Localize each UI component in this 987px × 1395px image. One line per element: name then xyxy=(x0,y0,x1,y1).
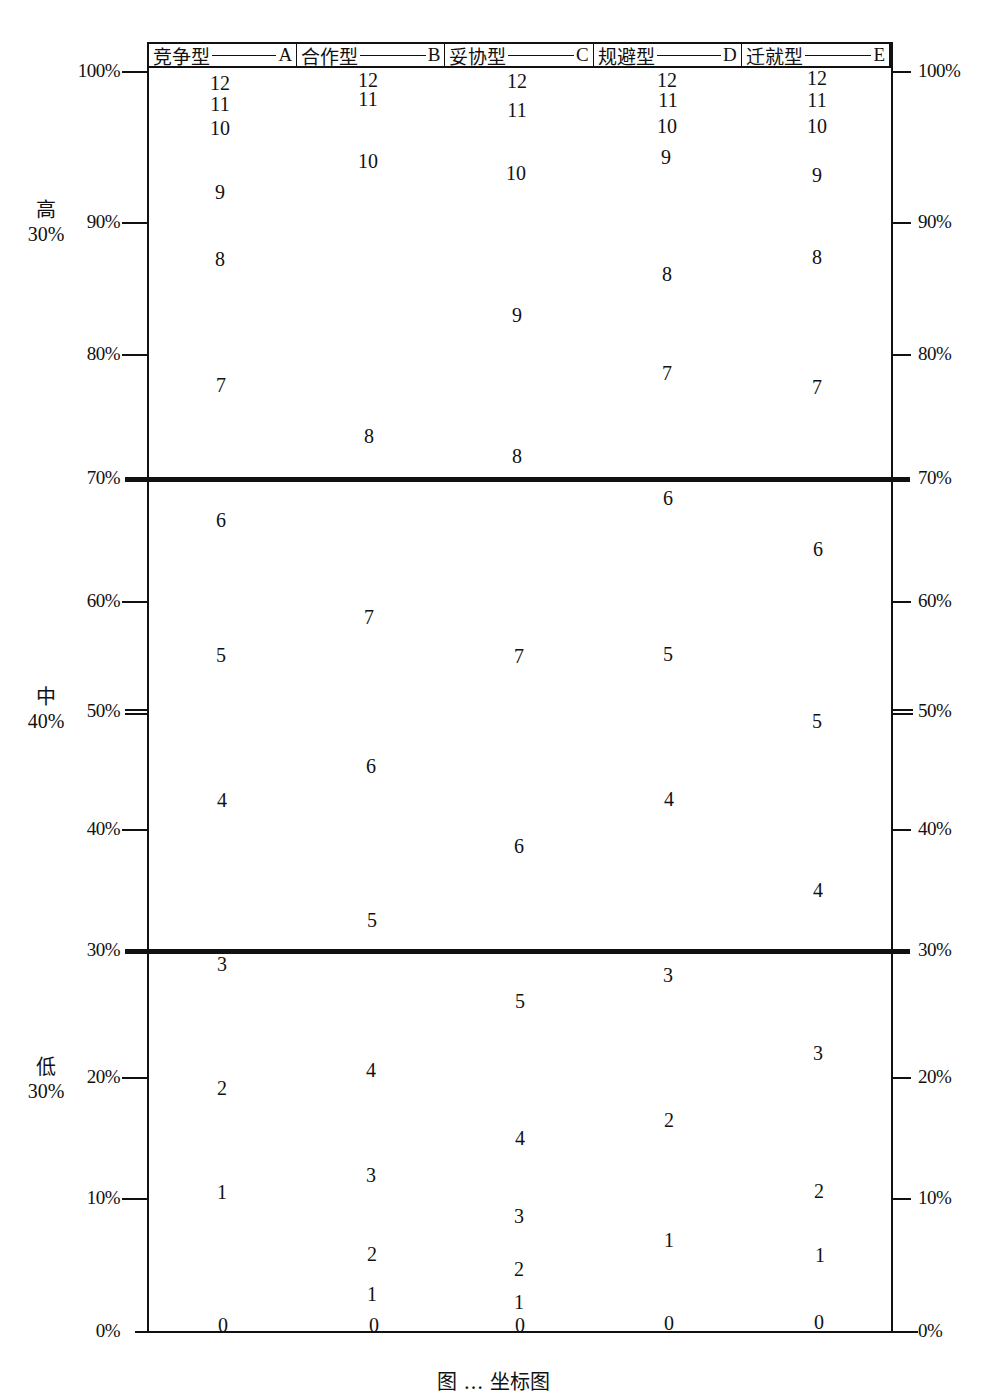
score-point-a: 10 xyxy=(210,117,230,140)
style-letter: B xyxy=(428,44,441,66)
score-point-b: 2 xyxy=(367,1243,377,1266)
score-point-e: 5 xyxy=(812,710,822,733)
score-point-a: 8 xyxy=(215,248,225,271)
score-point-b: 6 xyxy=(366,755,376,778)
left-axis-tick-label: 40% xyxy=(40,818,120,840)
tick-mark xyxy=(891,71,911,73)
dash-line xyxy=(360,55,426,56)
score-point-e: 6 xyxy=(813,538,823,561)
score-point-c: 7 xyxy=(514,645,524,668)
score-point-a: 4 xyxy=(217,789,227,812)
right-axis-tick-label: 10% xyxy=(918,1187,951,1209)
score-point-e: 10 xyxy=(807,115,827,138)
right-axis-tick-label: 40% xyxy=(918,818,951,840)
dash-line xyxy=(657,55,721,56)
zone-share: 30% xyxy=(16,222,76,246)
zone-label-high: 高30% xyxy=(16,198,76,246)
style-name: 竞争型 xyxy=(153,42,210,69)
dash-line xyxy=(508,55,574,56)
tick-mark xyxy=(122,71,147,73)
zone-share: 40% xyxy=(16,709,76,733)
right-axis-tick-label: 100% xyxy=(918,60,960,82)
score-point-d: 9 xyxy=(661,146,671,169)
score-point-a: 9 xyxy=(215,181,225,204)
score-point-d: 4 xyxy=(664,788,674,811)
score-point-b: 7 xyxy=(364,606,374,629)
score-point-c: 4 xyxy=(515,1127,525,1150)
style-name: 规避型 xyxy=(598,42,655,69)
score-point-d: 1 xyxy=(664,1229,674,1252)
score-point-a: 12 xyxy=(210,72,230,95)
right-axis-tick-label: 0% xyxy=(918,1320,942,1342)
score-point-e: 9 xyxy=(812,164,822,187)
tick-mark xyxy=(891,222,911,224)
score-point-c: 2 xyxy=(514,1258,524,1281)
score-point-b: 5 xyxy=(367,909,377,932)
style-letter: C xyxy=(576,44,589,66)
score-point-e: 7 xyxy=(812,376,822,399)
score-point-a: 7 xyxy=(216,374,226,397)
left-axis-tick-label: 30% xyxy=(40,939,120,961)
score-point-c: 5 xyxy=(515,990,525,1013)
score-point-a: 2 xyxy=(217,1077,227,1100)
score-point-c: 12 xyxy=(507,70,527,93)
score-point-d: 5 xyxy=(663,643,673,666)
left-axis-tick-label: 100% xyxy=(40,60,120,82)
score-point-c: 9 xyxy=(512,304,522,327)
figure-caption: 图 … 坐标图 xyxy=(0,1366,987,1395)
score-point-d: 6 xyxy=(663,487,673,510)
right-axis-tick-label: 50% xyxy=(918,700,951,722)
score-point-c: 0 xyxy=(515,1314,525,1337)
score-point-b: 0 xyxy=(369,1314,379,1337)
style-name: 妥协型 xyxy=(449,42,506,69)
tick-mark xyxy=(122,829,147,831)
score-point-d: 3 xyxy=(663,964,673,987)
zone-divider-line xyxy=(125,477,910,482)
right-axis-tick-label: 80% xyxy=(918,343,951,365)
score-point-b: 4 xyxy=(366,1059,376,1082)
score-point-e: 3 xyxy=(813,1042,823,1065)
score-point-b: 11 xyxy=(358,88,377,111)
right-axis-tick-label: 30% xyxy=(918,939,951,961)
zone-label-low: 低30% xyxy=(16,1055,76,1103)
tick-mark xyxy=(891,601,911,603)
x-axis-baseline xyxy=(135,1331,918,1333)
score-point-c: 8 xyxy=(512,445,522,468)
score-point-a: 0 xyxy=(218,1314,228,1337)
score-point-c: 11 xyxy=(507,99,526,122)
left-axis-tick-label: 60% xyxy=(40,590,120,612)
zone-name: 高 xyxy=(16,198,76,222)
score-point-d: 7 xyxy=(662,362,672,385)
score-point-c: 6 xyxy=(514,835,524,858)
zone-name: 中 xyxy=(16,685,76,709)
zone-share: 30% xyxy=(16,1079,76,1103)
double-tick-mark xyxy=(125,709,147,715)
style-letter: A xyxy=(278,44,292,66)
score-point-e: 11 xyxy=(807,89,826,112)
score-point-b: 8 xyxy=(364,425,374,448)
score-point-d: 0 xyxy=(664,1312,674,1335)
right-axis-tick-label: 20% xyxy=(918,1066,951,1088)
right-axis-tick-label: 90% xyxy=(918,211,951,233)
style-letter: D xyxy=(723,44,737,66)
score-point-e: 8 xyxy=(812,246,822,269)
dash-line xyxy=(805,55,872,56)
style-letter: E xyxy=(873,44,885,66)
header-cell-accommodating: 迁就型E xyxy=(742,44,889,66)
double-tick-mark xyxy=(891,709,913,715)
legend-header-row: 竞争型A 合作型B 妥协型C 规避型D 迁就型E xyxy=(147,42,891,68)
score-point-a: 6 xyxy=(216,509,226,532)
score-point-c: 1 xyxy=(514,1291,524,1314)
score-point-a: 5 xyxy=(216,644,226,667)
left-axis-tick-label: 10% xyxy=(40,1187,120,1209)
score-point-e: 1 xyxy=(815,1244,825,1267)
tick-mark xyxy=(122,354,147,356)
zone-name: 低 xyxy=(16,1055,76,1079)
header-cell-competing: 竞争型A xyxy=(149,44,297,66)
score-point-a: 3 xyxy=(217,953,227,976)
score-point-b: 3 xyxy=(366,1164,376,1187)
score-point-a: 1 xyxy=(217,1181,227,1204)
tick-mark xyxy=(122,1198,147,1200)
dash-line xyxy=(212,55,276,56)
zone-divider-line xyxy=(125,949,910,954)
